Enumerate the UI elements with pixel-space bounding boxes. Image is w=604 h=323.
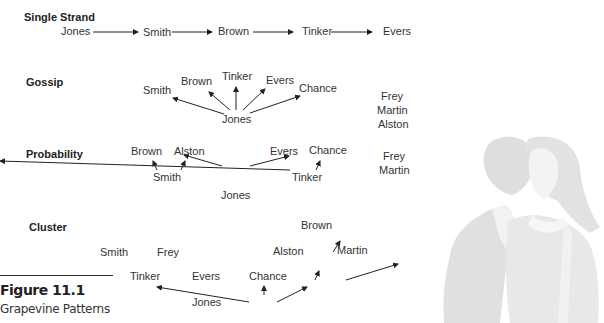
node-smith: Smith [100, 246, 128, 258]
node-evers: Evers [192, 270, 220, 282]
node-alston: Alston [378, 118, 409, 130]
node-brown: Brown [131, 145, 162, 157]
node-martin: Martin [337, 244, 368, 256]
section-title-gossip: Gossip [26, 76, 63, 88]
node-evers: Evers [266, 74, 294, 86]
node-smith: Smith [143, 26, 171, 38]
node-jones: Jones [61, 25, 90, 37]
node-tinker: Tinker [292, 171, 322, 183]
node-martin: Martin [377, 104, 408, 116]
node-tinker: Tinker [222, 70, 252, 82]
node-frey: Frey [381, 90, 403, 102]
node-alston: Alston [174, 145, 205, 157]
section-title-cluster: Cluster [29, 221, 67, 233]
node-jones: Jones [192, 296, 221, 308]
node-jones: Jones [222, 113, 251, 125]
node-martin: Martin [379, 164, 410, 176]
couple-whispering-illustration-icon [440, 135, 604, 323]
section-title-single-strand: Single Strand [24, 11, 95, 23]
node-smith: Smith [143, 84, 171, 96]
node-brown: Brown [218, 25, 249, 37]
node-evers: Evers [270, 145, 298, 157]
figure-caption: Grapevine Patterns [0, 302, 110, 316]
section-title-probability: Probability [26, 148, 83, 160]
node-frey: Frey [383, 150, 405, 162]
node-chance: Chance [309, 144, 347, 156]
node-chance: Chance [249, 270, 287, 282]
node-tinker: Tinker [302, 25, 332, 37]
node-alston: Alston [273, 245, 304, 257]
node-jones: Jones [221, 189, 250, 201]
node-brown: Brown [181, 75, 212, 87]
figure-number: Figure 11.1 [0, 282, 85, 298]
node-smith: Smith [153, 171, 181, 183]
figure-rule [0, 275, 113, 276]
node-evers: Evers [383, 25, 411, 37]
node-chance: Chance [299, 82, 337, 94]
node-frey: Frey [157, 246, 179, 258]
node-brown: Brown [301, 219, 332, 231]
node-tinker: Tinker [130, 270, 160, 282]
